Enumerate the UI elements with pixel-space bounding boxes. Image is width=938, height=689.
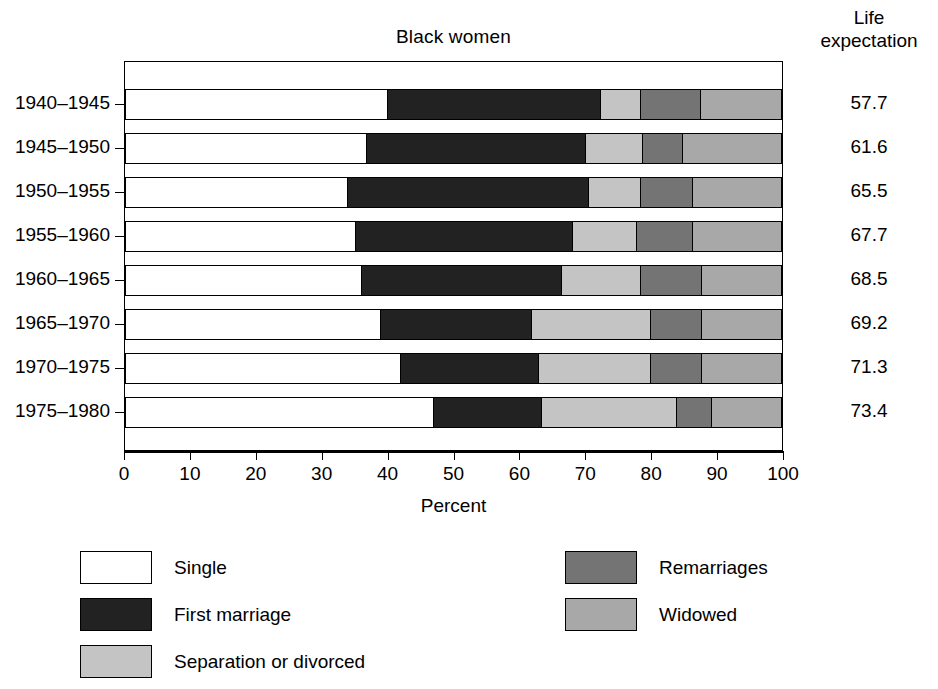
- legend-swatch: [565, 598, 637, 631]
- legend-label: Widowed: [659, 604, 737, 626]
- x-axis-tick-label: 0: [119, 463, 130, 485]
- bar-segment-single: [125, 221, 356, 252]
- x-axis-tick-label: 40: [377, 463, 398, 485]
- x-axis-tick: [124, 451, 125, 460]
- bar-segment-first-marriage: [381, 309, 532, 340]
- bar-segment-first-marriage: [348, 177, 588, 208]
- bar-segment-single: [125, 397, 434, 428]
- bar-segment-single: [125, 133, 367, 164]
- bar-segment-remarriages: [641, 89, 701, 120]
- y-axis-tick: [115, 236, 124, 237]
- legend-item-remarriages[interactable]: Remarriages: [565, 551, 768, 584]
- life-expectation-value: 71.3: [800, 356, 938, 378]
- legend-swatch: [565, 551, 637, 584]
- bar-segment-separation-or-divorced: [601, 89, 641, 120]
- legend-item-separation-or-divorced[interactable]: Separation or divorced: [80, 645, 365, 678]
- life-expectation-value: 61.6: [800, 136, 938, 158]
- bar-segment-separation-or-divorced: [532, 309, 650, 340]
- bar-row: [125, 133, 782, 164]
- x-axis-tick: [388, 451, 389, 460]
- bar-row: [125, 397, 782, 428]
- x-axis-tick-label: 50: [443, 463, 464, 485]
- legend-label: Separation or divorced: [174, 651, 365, 673]
- bar-segment-single: [125, 309, 381, 340]
- y-axis-label: 1960–1965: [15, 268, 110, 290]
- x-axis-tick: [190, 451, 191, 460]
- x-axis-tick: [519, 451, 520, 460]
- bar-segment-single: [125, 265, 362, 296]
- x-axis-tick-label: 100: [767, 463, 799, 485]
- x-axis-tick-label: 80: [641, 463, 662, 485]
- life-expectation-value: 69.2: [800, 312, 938, 334]
- x-axis-tick-label: 30: [311, 463, 332, 485]
- life-expectation-value: 67.7: [800, 224, 938, 246]
- x-axis-tick: [256, 451, 257, 460]
- x-axis-tick: [322, 451, 323, 460]
- bar-row: [125, 89, 782, 120]
- x-axis-tick-label: 60: [509, 463, 530, 485]
- bar-segment-single: [125, 177, 348, 208]
- y-axis-label: 1955–1960: [15, 224, 110, 246]
- legend-swatch: [80, 645, 152, 678]
- bar-row: [125, 353, 782, 384]
- bar-segment-first-marriage: [356, 221, 573, 252]
- x-axis-title: Percent: [124, 495, 783, 517]
- x-axis-tick-label: 20: [245, 463, 266, 485]
- bar-segment-first-marriage: [388, 89, 602, 120]
- life-expectation-value: 57.7: [800, 92, 938, 114]
- bar-segment-single: [125, 89, 388, 120]
- x-axis-tick-label: 10: [179, 463, 200, 485]
- x-axis-tick-label: 70: [575, 463, 596, 485]
- y-axis-tick: [115, 324, 124, 325]
- bar-segment-first-marriage: [362, 265, 562, 296]
- bar-segment-separation-or-divorced: [539, 353, 651, 384]
- bar-segment-separation-or-divorced: [562, 265, 642, 296]
- bar-segment-separation-or-divorced: [589, 177, 642, 208]
- bar-segment-first-marriage: [401, 353, 539, 384]
- y-axis-tick: [115, 280, 124, 281]
- y-axis-tick: [115, 412, 124, 413]
- bar-segment-widowed: [701, 89, 782, 120]
- bar-segment-remarriages: [651, 309, 702, 340]
- legend-swatch: [80, 551, 152, 584]
- y-axis-label: 1950–1955: [15, 180, 110, 202]
- plot-area: [124, 61, 783, 451]
- bar-segment-widowed: [702, 353, 782, 384]
- life-expectation-header: Life expectation: [800, 6, 938, 52]
- bar-segment-widowed: [693, 177, 782, 208]
- bar-segment-widowed: [683, 133, 782, 164]
- life-expectation-header-line1: Life: [800, 6, 938, 29]
- bar-segment-widowed: [712, 397, 782, 428]
- bar-segment-widowed: [702, 265, 782, 296]
- y-axis-label: 1945–1950: [15, 136, 110, 158]
- x-axis-tick: [585, 451, 586, 460]
- life-expectation-header-line2: expectation: [800, 29, 938, 52]
- legend-label: First marriage: [174, 604, 291, 626]
- legend-label: Single: [174, 557, 227, 579]
- bar-row: [125, 221, 782, 252]
- bar-segment-first-marriage: [434, 397, 542, 428]
- y-axis-label: 1970–1975: [15, 356, 110, 378]
- x-axis-tick: [651, 451, 652, 460]
- x-axis-tick: [717, 451, 718, 460]
- y-axis-tick: [115, 192, 124, 193]
- bar-segment-remarriages: [641, 177, 693, 208]
- legend-item-widowed[interactable]: Widowed: [565, 598, 737, 631]
- chart-title: Black women: [124, 26, 783, 48]
- legend-label: Remarriages: [659, 557, 768, 579]
- x-axis-tick: [783, 451, 784, 460]
- bar-segment-widowed: [693, 221, 782, 252]
- x-axis-tick-label: 90: [707, 463, 728, 485]
- life-expectation-value: 65.5: [800, 180, 938, 202]
- bar-segment-widowed: [702, 309, 782, 340]
- y-axis-tick: [115, 104, 124, 105]
- life-expectation-value: 68.5: [800, 268, 938, 290]
- legend-item-first-marriage[interactable]: First marriage: [80, 598, 291, 631]
- y-axis-label: 1965–1970: [15, 312, 110, 334]
- y-axis-tick: [115, 368, 124, 369]
- legend-swatch: [80, 598, 152, 631]
- legend-item-single[interactable]: Single: [80, 551, 227, 584]
- y-axis-label: 1975–1980: [15, 400, 110, 422]
- bar-segment-remarriages: [677, 397, 712, 428]
- bar-row: [125, 309, 782, 340]
